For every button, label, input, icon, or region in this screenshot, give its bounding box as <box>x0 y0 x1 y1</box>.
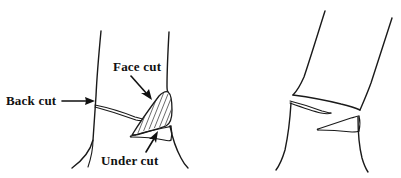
tree-felling-diagram: Back cut Face cut Under cut <box>0 0 401 178</box>
face-cut-label-text: Face cut <box>113 59 162 74</box>
under-cut-label-text: Under cut <box>101 153 159 168</box>
back-cut-label-text: Back cut <box>6 93 57 108</box>
figure-background <box>0 0 401 178</box>
figure-root: Back cut Face cut Under cut <box>0 0 401 178</box>
